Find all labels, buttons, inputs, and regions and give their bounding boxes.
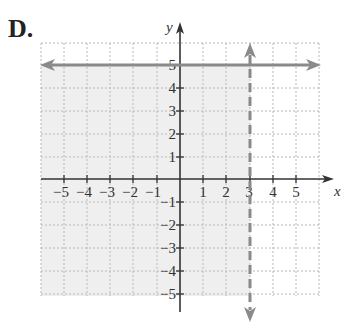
svg-text:4: 4 (169, 80, 177, 96)
shaded-region (41, 65, 250, 296)
svg-text:−4: −4 (76, 184, 92, 200)
svg-text:−1: −1 (145, 184, 161, 200)
coordinate-plane: −5 −4 −3 −2 −1 1 2 3 4 5 5 4 3 2 1 −1 −2… (0, 0, 351, 330)
svg-text:1: 1 (169, 149, 177, 165)
svg-text:−3: −3 (160, 240, 176, 256)
x-axis-label: x (333, 183, 341, 199)
svg-text:−4: −4 (160, 263, 176, 279)
svg-text:5: 5 (292, 184, 300, 200)
svg-text:2: 2 (222, 184, 230, 200)
svg-text:−3: −3 (99, 184, 115, 200)
svg-text:−2: −2 (122, 184, 138, 200)
svg-text:3: 3 (169, 103, 177, 119)
svg-text:−5: −5 (160, 286, 176, 302)
svg-text:−5: −5 (53, 184, 69, 200)
svg-text:−2: −2 (160, 217, 176, 233)
y-axis-label: y (164, 19, 173, 35)
svg-text:−1: −1 (160, 194, 176, 210)
svg-text:4: 4 (269, 184, 277, 200)
svg-text:1: 1 (199, 184, 207, 200)
svg-text:2: 2 (169, 126, 177, 142)
